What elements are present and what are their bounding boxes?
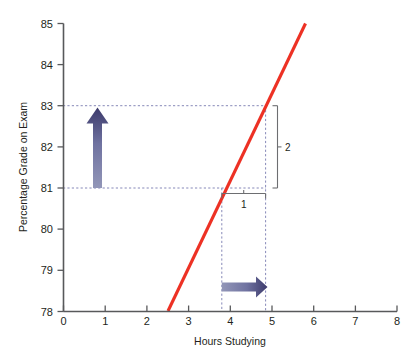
y-tick-label-79: 79: [41, 264, 53, 276]
y-tick-label-85: 85: [41, 18, 53, 30]
y-tick-label-82: 82: [41, 141, 53, 153]
x-tick-label-2: 2: [144, 315, 150, 327]
x-tick-label-8: 8: [394, 315, 400, 327]
x-tick-label-6: 6: [311, 315, 317, 327]
y-tick-label-81: 81: [41, 182, 53, 194]
y-tick-label-83: 83: [41, 100, 53, 112]
chart-canvas: 85 84 83 82 81 80 79 78 0 1 2 3 4 5 6 7 …: [0, 0, 406, 357]
run-bracket-label: 1: [241, 199, 247, 210]
x-tick-label-1: 1: [102, 315, 108, 327]
x-tick-label-0: 0: [60, 315, 66, 327]
x-axis-title: Hours Studying: [194, 335, 266, 347]
y-tick-label-80: 80: [41, 223, 53, 235]
rise-bracket-label: 2: [285, 142, 291, 153]
y-axis-title: Percentage Grade on Exam: [17, 102, 29, 232]
x-tick-label-3: 3: [186, 315, 192, 327]
x-tick-label-5: 5: [269, 315, 275, 327]
chart-figure: 85 84 83 82 81 80 79 78 0 1 2 3 4 5 6 7 …: [0, 0, 406, 357]
y-tick-label-78: 78: [41, 306, 53, 318]
chart-background: [0, 0, 406, 357]
x-tick-label-4: 4: [227, 315, 233, 327]
y-tick-label-84: 84: [41, 59, 53, 71]
x-tick-label-7: 7: [352, 315, 358, 327]
